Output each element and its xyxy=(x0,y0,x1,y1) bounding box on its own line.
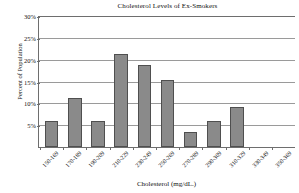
bar-slot xyxy=(156,16,179,147)
bar-slot xyxy=(63,16,86,147)
bar-slot xyxy=(202,16,225,147)
bar[interactable] xyxy=(138,65,151,147)
x-tick-label: 290-309 xyxy=(204,150,222,168)
x-label-slot: 330-349 xyxy=(249,149,272,177)
y-axis-title: Percent of Population xyxy=(16,17,23,127)
y-tick-label: 20% xyxy=(24,57,36,64)
x-tick-label: 270-289 xyxy=(181,150,199,168)
x-label-slot: 310-329 xyxy=(226,149,249,177)
y-tick-label: 10% xyxy=(24,101,36,108)
x-tick-label: 230-249 xyxy=(134,150,152,168)
x-label-slot: 210-229 xyxy=(109,149,132,177)
bar-slot xyxy=(249,16,272,147)
bar[interactable] xyxy=(184,132,197,147)
bar[interactable] xyxy=(114,54,127,147)
x-label-slot: 190-209 xyxy=(86,149,109,177)
bar[interactable] xyxy=(45,121,58,147)
bar-slot xyxy=(226,16,249,147)
y-tick-label: 25% xyxy=(24,36,36,43)
x-label-slot: 170-189 xyxy=(62,149,85,177)
bar[interactable] xyxy=(161,80,174,147)
bar-series xyxy=(40,16,295,147)
x-tick-label: 250-269 xyxy=(158,150,176,168)
bar[interactable] xyxy=(68,98,81,147)
x-tick-label: 210-229 xyxy=(111,150,129,168)
bar[interactable] xyxy=(91,121,104,147)
bar-slot xyxy=(110,16,133,147)
plot-area: 5%10%15%20%25%30% xyxy=(38,16,295,148)
bar-slot xyxy=(179,16,202,147)
bar-slot xyxy=(272,16,295,147)
x-label-slot: 350-369 xyxy=(273,149,296,177)
chart-title: Cholesterol Levels of Ex-Smokers xyxy=(40,2,295,10)
x-tick-label: 150-169 xyxy=(41,150,59,168)
y-tick-label: 5% xyxy=(27,123,36,130)
x-axis-tick-labels: 150-169170-189190-209210-229230-249250-2… xyxy=(39,149,296,177)
x-tick-label: 350-369 xyxy=(275,150,293,168)
x-axis-title: Cholesterol (mg/dL.) xyxy=(38,180,295,188)
bar[interactable] xyxy=(207,121,220,147)
x-label-slot: 290-309 xyxy=(203,149,226,177)
x-label-slot: 270-289 xyxy=(179,149,202,177)
x-tick-label: 190-209 xyxy=(88,150,106,168)
y-tick-label: 15% xyxy=(24,79,36,86)
x-tick-label: 330-349 xyxy=(251,150,269,168)
bar-slot xyxy=(86,16,109,147)
x-tick-label: 310-329 xyxy=(228,150,246,168)
x-label-slot: 250-269 xyxy=(156,149,179,177)
x-tick-label: 170-189 xyxy=(64,150,82,168)
bar[interactable] xyxy=(230,107,243,147)
y-tick-label: 30% xyxy=(24,14,36,21)
bar-chart: Cholesterol Levels of Ex-Smokers Percent… xyxy=(0,0,299,193)
bar-slot xyxy=(40,16,63,147)
bar-slot xyxy=(133,16,156,147)
x-label-slot: 150-169 xyxy=(39,149,62,177)
x-label-slot: 230-249 xyxy=(132,149,155,177)
